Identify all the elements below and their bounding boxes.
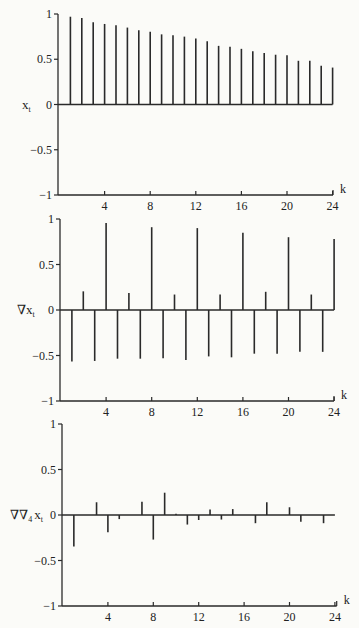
x-axis-label: k xyxy=(344,593,350,607)
y-tick-label: 1 xyxy=(48,212,54,226)
y-tick-label: −0.5 xyxy=(32,349,54,363)
y-tick-label: 0 xyxy=(46,98,52,112)
y-tick-label: 0.5 xyxy=(39,258,54,272)
y-tick-label: 0 xyxy=(50,508,56,522)
y-tick-label: 1 xyxy=(50,417,56,431)
x-tick-label: 4 xyxy=(102,199,108,213)
x-tick-label: 12 xyxy=(191,405,203,419)
y-tick-label: 0.5 xyxy=(41,463,56,477)
stem-plot-figure: 10.50−0.5−14812162024kxt 10.50−0.5−14812… xyxy=(0,0,359,628)
y-tick-label: 0 xyxy=(48,303,54,317)
y-tick-label: −0.5 xyxy=(30,143,52,157)
x-tick-label: 20 xyxy=(284,610,296,624)
y-tick-label: −1 xyxy=(41,394,54,408)
y-axis-label: ∇xt xyxy=(17,302,36,319)
x-tick-label: 24 xyxy=(327,199,339,213)
x-tick-label: 20 xyxy=(283,405,295,419)
panel-nabla-xt: 10.50−0.5−14812162024k∇xt xyxy=(17,212,347,419)
y-axis-label: ∇∇4xt xyxy=(10,507,44,524)
y-tick-label: 1 xyxy=(46,7,52,21)
x-tick-label: 12 xyxy=(193,610,205,624)
x-tick-label: 8 xyxy=(149,405,155,419)
x-axis-label: k xyxy=(340,182,346,196)
x-tick-label: 8 xyxy=(150,610,156,624)
x-tick-label: 16 xyxy=(238,610,250,624)
y-tick-label: −1 xyxy=(43,599,56,613)
x-tick-label: 12 xyxy=(190,199,202,213)
x-tick-label: 20 xyxy=(281,199,293,213)
y-axis-label: xt xyxy=(22,97,32,114)
x-tick-label: 24 xyxy=(328,405,340,419)
x-axis-label: k xyxy=(341,388,347,402)
x-tick-label: 16 xyxy=(237,405,249,419)
y-tick-label: 0.5 xyxy=(37,52,52,66)
x-tick-label: 8 xyxy=(147,199,153,213)
panel-xt: 10.50−0.5−14812162024kxt xyxy=(22,7,346,213)
x-tick-label: 16 xyxy=(235,199,247,213)
y-tick-label: −0.5 xyxy=(34,554,56,568)
panel-nabla-nabla4-xt: 10.50−0.5−14812162024k∇∇4xt xyxy=(10,417,350,624)
x-tick-label: 4 xyxy=(103,405,109,419)
x-tick-label: 24 xyxy=(329,610,341,624)
y-tick-label: −1 xyxy=(39,188,52,202)
x-tick-label: 4 xyxy=(105,610,111,624)
